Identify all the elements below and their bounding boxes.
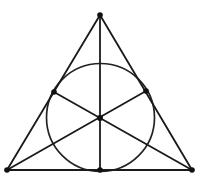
tangent-dot-midpoint-right: [143, 88, 149, 94]
figure-background: [0, 0, 202, 182]
tangent-dot-midpoint-bottom: [97, 167, 103, 173]
geometry-canvas: [0, 0, 202, 182]
vertex-dot-apex: [97, 12, 103, 18]
vertex-dot-bottom-left: [4, 167, 10, 173]
tangent-dot-midpoint-left: [51, 89, 57, 95]
vertex-dot-bottom-right: [189, 167, 195, 173]
centroid-dot: [97, 115, 103, 121]
geometry-figure: [0, 0, 202, 182]
